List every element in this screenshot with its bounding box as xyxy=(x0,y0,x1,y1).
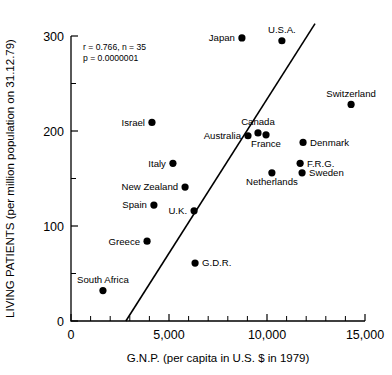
data-point xyxy=(297,160,304,167)
data-point-label: South Africa xyxy=(77,274,129,285)
data-point xyxy=(278,37,285,44)
annotation-line: r = 0.766, n = 35 xyxy=(83,42,146,52)
data-point xyxy=(238,34,245,41)
data-point-label: New Zealand xyxy=(122,181,179,192)
statistics-annotation: r = 0.766, n = 35p = 0.0000001 xyxy=(83,42,146,63)
data-point-label: Sweden xyxy=(309,167,344,178)
y-tick-label: 300 xyxy=(43,30,64,44)
data-point-label: Greece xyxy=(109,236,140,247)
axis-tick-labels: 010020030005,00010,00015,000 xyxy=(43,30,384,343)
x-tick-label: 15,000 xyxy=(346,328,384,342)
data-point-label: Netherlands xyxy=(246,176,298,187)
data-point-label: U.S.A. xyxy=(268,24,296,35)
data-point-label: U.K. xyxy=(168,205,187,216)
data-point xyxy=(254,129,261,136)
data-point xyxy=(181,183,188,190)
data-point xyxy=(299,139,306,146)
data-point xyxy=(190,207,197,214)
data-point-label: Denmark xyxy=(310,137,349,148)
data-point-label: Canada xyxy=(241,116,275,127)
annotation-line: p = 0.0000001 xyxy=(83,53,138,63)
data-point-labels: JapanU.S.A.SwitzerlandIsraelAustraliaCan… xyxy=(77,24,376,285)
data-point xyxy=(347,101,354,108)
data-point xyxy=(298,169,305,176)
y-tick-label: 100 xyxy=(43,220,64,234)
x-axis-title: G.N.P. (per capita in U.S. $ in 1979) xyxy=(127,352,310,364)
y-axis-title: LIVING PATIENTS (per million population … xyxy=(4,39,16,318)
y-tick-label: 200 xyxy=(43,125,64,139)
data-point-label: Italy xyxy=(148,158,166,169)
data-point-label: Israel xyxy=(121,117,144,128)
data-point-label: G.D.R. xyxy=(202,257,231,268)
regression-line xyxy=(126,24,315,321)
data-point xyxy=(99,287,106,294)
x-tick-label: 5,000 xyxy=(153,328,184,342)
data-point xyxy=(143,238,150,245)
axis-titles: LIVING PATIENTS (per million population … xyxy=(4,39,309,364)
data-point-label: Australia xyxy=(204,130,242,141)
data-point-label: Japan xyxy=(209,32,235,43)
data-point xyxy=(148,119,155,126)
data-point xyxy=(191,259,198,266)
scatter-chart: 010020030005,00010,00015,000 JapanU.S.A.… xyxy=(0,0,392,375)
x-tick-label: 10,000 xyxy=(248,328,286,342)
data-point xyxy=(169,160,176,167)
chart-canvas: 010020030005,00010,00015,000 JapanU.S.A.… xyxy=(0,0,392,375)
data-point-label: Spain xyxy=(122,199,147,210)
x-tick-label: 0 xyxy=(68,328,75,342)
data-point-label: Switzerland xyxy=(326,88,376,99)
data-point-label: France xyxy=(251,138,281,149)
y-tick-label: 0 xyxy=(57,315,64,329)
data-point xyxy=(150,202,157,209)
trend-line xyxy=(126,24,315,321)
